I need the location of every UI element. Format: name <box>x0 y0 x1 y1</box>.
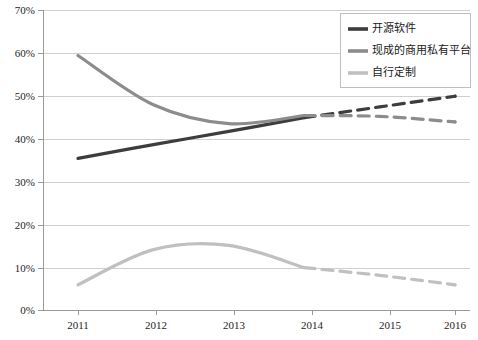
y-tick-label-40: 40% <box>15 133 35 145</box>
y-tick-label-50: 50% <box>15 90 35 102</box>
legend-label-open-source: 开源软件 <box>372 21 416 34</box>
chart-canvas: 70% 60% 50% 40% 30% 20% 10% 0% 2011 2012… <box>0 0 478 340</box>
y-tick-label-10: 10% <box>15 262 35 274</box>
legend-label-custom: 自行定制 <box>372 65 416 78</box>
x-tick-label-2014: 2014 <box>301 319 324 331</box>
y-axis-ticks <box>38 11 43 311</box>
y-tick-label-0: 0% <box>20 304 35 316</box>
line-chart-figure: 70% 60% 50% 40% 30% 20% 10% 0% 2011 2012… <box>0 0 478 340</box>
series-endpoint-commercial-platform <box>453 120 456 123</box>
legend-label-commercial: 现成的商用私有平台 <box>372 43 471 56</box>
x-tick-label-2011: 2011 <box>67 319 89 331</box>
y-tick-label-70: 70% <box>15 4 35 16</box>
x-tick-label-2016: 2016 <box>444 319 467 331</box>
series-endpoint-open-source <box>453 95 456 98</box>
x-tick-label-2012: 2012 <box>145 319 167 331</box>
y-tick-label-60: 60% <box>15 47 35 59</box>
chart-legend: 开源软件 现成的商用私有平台 自行定制 <box>341 14 472 88</box>
y-tick-label-20: 20% <box>15 219 35 231</box>
x-axis-tick-labels: 2011 2012 2013 2014 2015 2016 <box>67 319 466 331</box>
x-tick-label-2015: 2015 <box>379 319 402 331</box>
x-tick-label-2013: 2013 <box>223 319 246 331</box>
y-tick-label-30: 30% <box>15 176 35 188</box>
series-endpoint-self-custom <box>453 283 456 286</box>
y-axis-tick-labels: 70% 60% 50% 40% 30% 20% 10% 0% <box>15 4 35 316</box>
